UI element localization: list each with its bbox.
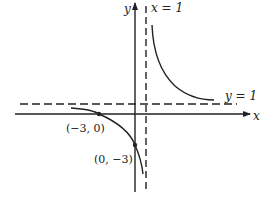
point-y-intercept-label: (0, −3)	[94, 153, 133, 166]
point-x-intercept	[97, 112, 101, 116]
horizontal-asymptote-label: y = 1	[224, 89, 257, 103]
point-y-intercept	[133, 143, 137, 147]
vertical-asymptote-label: x = 1	[151, 1, 183, 15]
point-x-intercept-label: (−3, 0)	[66, 122, 105, 135]
y-axis-label: y	[123, 2, 131, 16]
curve-right-branch	[152, 25, 214, 100]
graph-canvas: x y x = 1 y = 1 (−3, 0) (0, −3)	[0, 0, 274, 204]
x-axis-label: x	[253, 109, 260, 123]
